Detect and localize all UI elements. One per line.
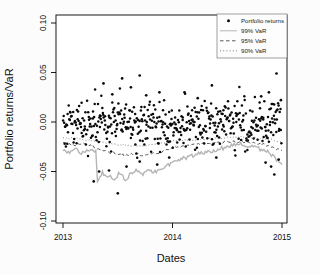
return-point xyxy=(91,134,94,137)
return-point xyxy=(279,108,282,111)
return-point xyxy=(135,152,138,155)
return-point xyxy=(262,136,265,139)
return-point xyxy=(185,121,188,124)
return-point xyxy=(149,101,152,104)
return-point xyxy=(250,133,253,136)
return-point xyxy=(268,140,271,143)
return-point xyxy=(180,134,183,137)
return-point xyxy=(277,102,280,105)
return-point xyxy=(273,114,276,117)
return-point xyxy=(99,115,102,118)
return-point xyxy=(66,113,69,116)
return-point xyxy=(71,123,74,126)
return-point xyxy=(238,112,241,115)
return-outlier-point xyxy=(111,93,114,96)
return-point xyxy=(156,116,159,119)
return-point xyxy=(76,127,79,130)
return-point xyxy=(120,109,123,112)
return-point xyxy=(252,127,255,130)
return-point xyxy=(280,129,283,132)
return-point xyxy=(263,100,266,103)
return-point xyxy=(243,129,246,132)
return-point xyxy=(239,126,242,128)
return-point xyxy=(134,143,137,146)
return-point xyxy=(174,116,177,119)
return-point xyxy=(234,154,237,157)
return-outlier-point xyxy=(108,169,111,172)
return-point xyxy=(278,111,281,114)
return-point xyxy=(214,131,217,134)
return-point xyxy=(261,127,264,130)
return-point xyxy=(97,103,100,106)
return-point xyxy=(227,107,230,110)
return-point xyxy=(266,123,269,126)
return-point xyxy=(239,124,242,127)
y-tick-label: -0.10 xyxy=(39,211,48,230)
return-point xyxy=(258,101,261,104)
return-point xyxy=(143,114,146,117)
return-point xyxy=(93,103,96,106)
return-point xyxy=(125,103,128,106)
return-point xyxy=(218,122,221,125)
return-point xyxy=(86,100,89,103)
return-point xyxy=(191,109,194,112)
return-point xyxy=(184,145,187,148)
return-point xyxy=(84,111,87,114)
return-point xyxy=(168,111,171,114)
return-point xyxy=(233,105,236,108)
return-point xyxy=(93,125,96,128)
return-outlier-point xyxy=(183,91,186,94)
return-point xyxy=(63,142,66,145)
return-point xyxy=(113,107,116,110)
return-point xyxy=(129,109,132,112)
return-point xyxy=(80,101,83,104)
return-point xyxy=(256,139,259,142)
return-point xyxy=(170,118,173,121)
return-point xyxy=(235,121,238,124)
return-point xyxy=(115,135,118,138)
return-point xyxy=(112,111,115,114)
return-point xyxy=(205,131,208,134)
return-point xyxy=(186,127,189,130)
return-point xyxy=(179,131,182,134)
return-point xyxy=(87,111,90,114)
return-outlier-point xyxy=(196,97,199,100)
return-outlier-point xyxy=(98,170,101,173)
return-point xyxy=(152,113,155,116)
return-point xyxy=(129,126,132,129)
return-point xyxy=(69,119,72,122)
return-point xyxy=(104,124,107,127)
return-point xyxy=(187,112,190,115)
return-point xyxy=(253,119,256,122)
return-point xyxy=(224,106,227,109)
return-point xyxy=(172,134,175,137)
return-point xyxy=(219,110,222,113)
return-point xyxy=(97,120,100,123)
return-point xyxy=(194,148,197,151)
return-point xyxy=(82,135,85,138)
return-point xyxy=(246,133,249,136)
return-point xyxy=(201,132,204,135)
return-point xyxy=(188,120,191,123)
return-point xyxy=(269,124,272,127)
return-point xyxy=(164,113,167,116)
return-outlier-point xyxy=(156,163,159,166)
return-point xyxy=(137,125,140,128)
return-point xyxy=(232,117,235,120)
return-point xyxy=(157,120,160,123)
return-point xyxy=(231,125,234,128)
return-point xyxy=(152,116,155,119)
return-point xyxy=(111,101,114,104)
return-point xyxy=(131,111,134,114)
return-point xyxy=(182,116,185,119)
return-point xyxy=(199,124,202,127)
return-point xyxy=(261,140,264,143)
return-point xyxy=(109,117,112,120)
return-point xyxy=(96,125,99,128)
return-point xyxy=(203,129,206,132)
return-point xyxy=(70,115,73,118)
return-point xyxy=(200,105,203,108)
return-point xyxy=(264,126,267,128)
return-point xyxy=(182,142,185,145)
return-point xyxy=(203,100,206,103)
